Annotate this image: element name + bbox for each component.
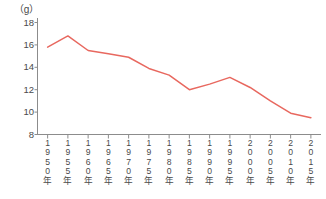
x-axis-tick-label-char: 年: [305, 177, 317, 186]
x-axis-tick-label: 1970年: [123, 139, 135, 186]
x-axis-tick-label: 2005年: [264, 139, 276, 186]
x-axis-tick-label-char: 年: [285, 177, 297, 186]
x-axis-tick-label-char: 年: [123, 177, 135, 186]
x-axis-tick-label-char: 年: [62, 177, 74, 186]
x-axis-tick-label-char: 年: [143, 177, 155, 186]
x-axis-tick-label: 1995年: [224, 139, 236, 186]
x-axis-tick-label: 1955年: [62, 139, 74, 186]
x-axis-tick-label: 1985年: [183, 139, 195, 186]
x-axis-tick-label-char: 年: [82, 177, 94, 186]
x-axis-tick-label: 1950年: [42, 139, 54, 186]
x-axis-tick-label-char: 年: [244, 177, 256, 186]
x-axis-tick-label: 2015年: [305, 139, 317, 186]
x-axis-tick-label-char: 年: [42, 177, 54, 186]
x-axis-tick-label: 1990年: [204, 139, 216, 186]
x-axis-tick-label: 1975年: [143, 139, 155, 186]
x-axis-tick-label-char: 年: [204, 177, 216, 186]
x-axis-tick-label-char: 年: [224, 177, 236, 186]
x-axis-tick-label: 1960年: [82, 139, 94, 186]
x-axis-tick-labels: 1950年1955年1960年1965年1970年1975年1980年1985年…: [0, 0, 326, 199]
x-axis-tick-label-char: 年: [264, 177, 276, 186]
x-axis-tick-label: 2010年: [285, 139, 297, 186]
x-axis-tick-label: 2000年: [244, 139, 256, 186]
x-axis-tick-label-char: 年: [163, 177, 175, 186]
line-chart: （g） 81012141618 1950年1955年1960年1965年1970…: [0, 0, 326, 199]
x-axis-tick-label: 1980年: [163, 139, 175, 186]
x-axis-tick-label: 1965年: [102, 139, 114, 186]
x-axis-tick-label-char: 年: [183, 177, 195, 186]
x-axis-tick-label-char: 年: [102, 177, 114, 186]
